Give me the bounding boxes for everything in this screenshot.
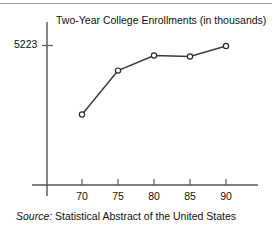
- x-axis-tick-label-80: 80: [148, 190, 160, 202]
- plot-area: [0, 0, 276, 236]
- x-axis-tick-marks: [82, 179, 226, 185]
- source-caption: Source: Statistical Abstract of the Unit…: [16, 210, 236, 223]
- data-point-marker: [151, 53, 156, 58]
- data-point-marker: [223, 43, 228, 48]
- source-value: Statistical Abstract of the United State…: [52, 210, 236, 222]
- x-axis-tick-label-90: 90: [220, 190, 232, 202]
- data-point-marker: [115, 68, 120, 73]
- x-axis-tick-label-75: 75: [112, 190, 124, 202]
- data-point-marker: [79, 112, 84, 117]
- x-axis-tick-label-70: 70: [76, 190, 88, 202]
- chart-figure: Two-Year College Enrollments (in thousan…: [0, 0, 276, 236]
- source-label: Source:: [16, 210, 52, 222]
- data-point-marker: [187, 54, 192, 59]
- x-axis-tick-label-85: 85: [184, 190, 196, 202]
- data-point-markers: [79, 43, 228, 117]
